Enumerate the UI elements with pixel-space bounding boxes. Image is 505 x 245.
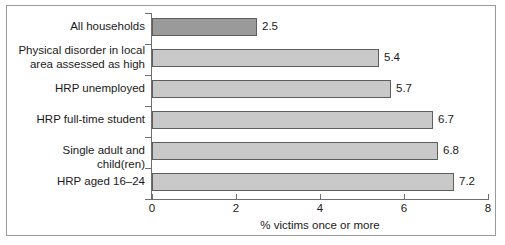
value-tick-label-6: 6 [401, 202, 407, 214]
value-tick-6 [404, 194, 405, 199]
value-tick-4 [320, 194, 321, 199]
bar-value-single-adult-and-children: 6.8 [443, 144, 459, 156]
bar-hrp-aged-16-24[interactable] [152, 173, 454, 191]
category-label-hrp-aged-16-24: HRP aged 16–24 [12, 175, 145, 189]
bar-value-all-households: 2.5 [262, 20, 278, 32]
category-label-physical-disorder: Physical disorder in local area assessed… [12, 44, 145, 71]
value-tick-0 [152, 194, 153, 199]
value-tick-label-2: 2 [233, 202, 239, 214]
x-axis-title: % victims once or more [152, 219, 488, 231]
category-label-all-households: All households [12, 20, 145, 34]
value-tick-label-0: 0 [149, 202, 155, 214]
value-tick-label-8: 8 [485, 202, 491, 214]
category-tick [145, 13, 151, 14]
bar-value-hrp-aged-16-24: 7.2 [459, 175, 475, 187]
category-label-single-adult-and-children: Single adult and child(ren) [12, 144, 145, 171]
bar-value-physical-disorder: 5.4 [384, 51, 400, 63]
plot-area: 0 2 4 6 8 All households Physical disord… [0, 0, 505, 245]
value-tick-8 [488, 194, 489, 199]
bar-physical-disorder[interactable] [152, 49, 379, 67]
category-axis-line [151, 13, 152, 200]
bar-hrp-full-time-student[interactable] [152, 111, 433, 129]
category-tick [145, 199, 151, 200]
value-axis-line [151, 199, 489, 200]
category-tick [145, 44, 151, 45]
category-tick [145, 75, 151, 76]
chart-figure: 0 2 4 6 8 All households Physical disord… [0, 0, 505, 245]
value-tick-label-4: 4 [317, 202, 323, 214]
bar-all-households[interactable] [152, 18, 257, 36]
category-tick [145, 168, 151, 169]
value-tick-2 [236, 194, 237, 199]
bar-value-hrp-full-time-student: 6.7 [438, 113, 454, 125]
category-label-hrp-unemployed: HRP unemployed [12, 82, 145, 96]
bar-value-hrp-unemployed: 5.7 [396, 82, 412, 94]
category-tick [145, 137, 151, 138]
bar-single-adult-and-children[interactable] [152, 142, 438, 160]
bar-hrp-unemployed[interactable] [152, 80, 391, 98]
category-label-hrp-full-time-student: HRP full-time student [12, 113, 145, 127]
category-tick [145, 106, 151, 107]
